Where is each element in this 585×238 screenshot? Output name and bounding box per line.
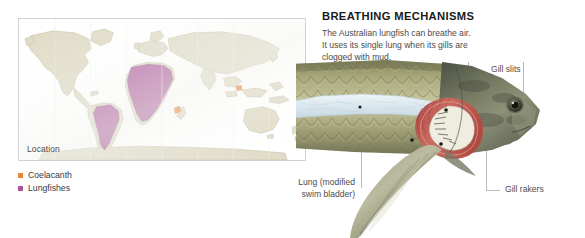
legend-label-coelacanth: Coelacanth <box>28 171 72 180</box>
lungfish-svg <box>296 58 585 238</box>
map-location-label: Location <box>27 145 60 154</box>
legend-swatch-coelacanth <box>18 173 23 178</box>
map-gloss <box>19 19 305 160</box>
legend-swatch-lungfishes <box>18 186 23 191</box>
breathing-mechanisms-block: BREATHING MECHANISMS The Australian lung… <box>322 10 502 63</box>
map-legend: Coelacanth Lungfishes <box>18 170 72 196</box>
world-map <box>19 19 305 160</box>
location-map-panel: Location <box>18 18 306 161</box>
lung-anchor-dot <box>358 105 361 108</box>
gill-raker-anchor-dot-2 <box>439 142 443 146</box>
legend-item-coelacanth: Coelacanth <box>18 170 72 181</box>
gill-raker-anchor-dot <box>444 108 448 112</box>
legend-item-lungfishes: Lungfishes <box>18 183 72 194</box>
lungfish-eye <box>507 97 524 113</box>
gill-filament-anchor-dot <box>410 138 414 142</box>
lungfish-pectoral-fin <box>350 145 442 238</box>
legend-label-lungfishes: Lungfishes <box>28 184 70 193</box>
figure-canvas: Location Coelacanth Lungfishes BREATHING… <box>0 0 585 238</box>
lungfish-illustration <box>296 58 585 238</box>
breathing-mechanisms-title: BREATHING MECHANISMS <box>322 10 502 23</box>
